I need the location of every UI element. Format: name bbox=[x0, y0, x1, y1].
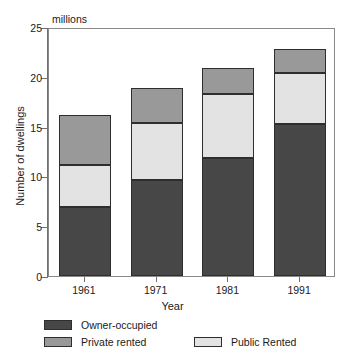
y-axis-tick bbox=[41, 128, 48, 129]
legend-item-owner-occupied[interactable]: Owner-occupied bbox=[44, 319, 157, 331]
bar-segment-owner-occupied bbox=[59, 207, 111, 276]
legend-swatch-icon bbox=[44, 320, 72, 330]
bar-segment-owner-occupied bbox=[202, 158, 254, 276]
bar-segment-owner-occupied bbox=[131, 180, 183, 276]
x-axis-tick bbox=[84, 277, 85, 282]
y-axis-tick bbox=[41, 177, 48, 178]
y-axis-tick bbox=[41, 227, 48, 228]
bar-segment-public-rented bbox=[59, 165, 111, 207]
legend-item-private-rented[interactable]: Private rented bbox=[44, 336, 146, 348]
bar-segment-public-rented bbox=[202, 94, 254, 159]
y-axis-line bbox=[47, 28, 48, 278]
y-axis-tick bbox=[41, 28, 48, 29]
bar-segment-public-rented bbox=[131, 123, 183, 181]
x-axis-title: Year bbox=[0, 300, 345, 312]
legend-swatch-icon bbox=[44, 337, 72, 347]
bars-layer bbox=[49, 29, 334, 276]
x-axis-tick-label-1981: 1981 bbox=[197, 284, 257, 296]
bar-segment-owner-occupied bbox=[274, 124, 326, 276]
bar-1971 bbox=[131, 27, 183, 276]
x-axis-tick bbox=[227, 277, 228, 282]
y-axis-title: Number of dwellings bbox=[14, 81, 26, 231]
legend-item-public-rented[interactable]: Public Rented bbox=[194, 336, 296, 348]
plot-area bbox=[48, 28, 335, 277]
y-axis-tick-label: 25 bbox=[2, 23, 42, 33]
chart-root: millions 0510152025 Number of dwellings … bbox=[0, 0, 345, 357]
legend-swatch-icon bbox=[194, 337, 222, 347]
units-label: millions bbox=[52, 13, 87, 25]
x-axis-tick bbox=[156, 277, 157, 282]
bar-segment-private-rented bbox=[274, 49, 326, 73]
bar-1991 bbox=[274, 27, 326, 276]
x-axis-tick bbox=[299, 277, 300, 282]
y-axis-tick-label: 0 bbox=[2, 272, 42, 282]
bar-segment-private-rented bbox=[59, 115, 111, 166]
legend-label: Private rented bbox=[81, 336, 146, 348]
x-axis-tick-label-1961: 1961 bbox=[54, 284, 114, 296]
legend-label: Public Rented bbox=[231, 336, 296, 348]
bar-1981 bbox=[202, 27, 254, 276]
x-axis-tick-label-1991: 1991 bbox=[269, 284, 329, 296]
chart-legend: Owner-occupiedPrivate rentedPublic Rente… bbox=[44, 319, 334, 353]
y-axis-tick bbox=[41, 277, 48, 278]
bar-segment-private-rented bbox=[131, 88, 183, 123]
legend-label: Owner-occupied bbox=[81, 319, 157, 331]
x-axis-tick-label-1971: 1971 bbox=[126, 284, 186, 296]
y-axis-tick bbox=[41, 78, 48, 79]
bar-1961 bbox=[59, 27, 111, 276]
bar-segment-private-rented bbox=[202, 68, 254, 94]
bar-segment-public-rented bbox=[274, 73, 326, 124]
